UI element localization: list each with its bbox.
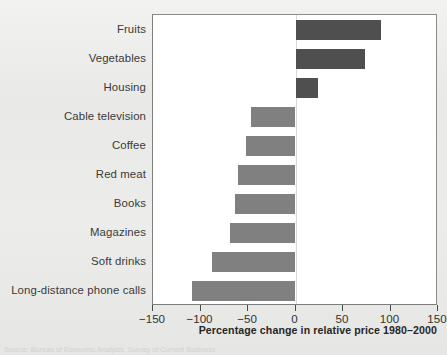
bar-housing: [296, 78, 319, 98]
tick-mark-50: [342, 305, 343, 311]
bar-fruits: [296, 20, 382, 40]
plot-area: [152, 14, 437, 305]
category-label-vegetables: Vegetables: [0, 52, 146, 64]
tick-mark-neg100: [200, 305, 201, 311]
tick-mark-0: [295, 305, 296, 311]
category-label-soft-drinks: Soft drinks: [0, 255, 146, 267]
x-axis-title: Percentage change in relative price 1980…: [152, 324, 437, 336]
category-label-magazines: Magazines: [0, 226, 146, 238]
bar-books: [235, 194, 296, 214]
bar-series: [153, 15, 436, 304]
category-label-red-meat: Red meat: [0, 168, 146, 180]
category-label-long-distance-phone-calls: Long-distance phone calls: [0, 284, 146, 296]
figure-source-caption: Source: Bureau of Economic Analysis, Sur…: [4, 345, 434, 354]
category-label-books: Books: [0, 197, 146, 209]
bar-magazines: [230, 223, 296, 243]
category-label-cable-television: Cable television: [0, 110, 146, 122]
bar-long-distance-phone-calls: [192, 281, 296, 301]
category-axis-labels: FruitsVegetablesHousingCable televisionC…: [0, 14, 146, 305]
bar-soft-drinks: [212, 252, 296, 272]
category-label-coffee: Coffee: [0, 139, 146, 151]
tick-mark-neg50: [247, 305, 248, 311]
tick-mark-100: [390, 305, 391, 311]
tick-mark-neg150: [152, 305, 153, 311]
figure-container: FruitsVegetablesHousingCable televisionC…: [0, 0, 447, 355]
bar-red-meat: [238, 165, 296, 185]
bar-vegetables: [296, 49, 365, 69]
category-label-fruits: Fruits: [0, 23, 146, 35]
tick-mark-150: [437, 305, 438, 311]
category-label-housing: Housing: [0, 81, 146, 93]
bar-coffee: [246, 136, 295, 156]
bar-chart: FruitsVegetablesHousingCable televisionC…: [0, 0, 447, 340]
bar-cable-television: [251, 107, 296, 127]
